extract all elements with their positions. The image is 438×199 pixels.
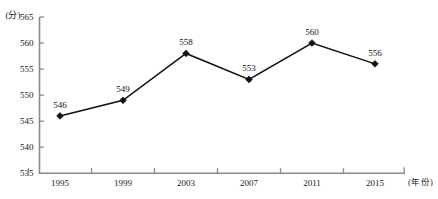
y-tick-label: 555 <box>20 64 34 74</box>
data-point-markers <box>57 40 379 120</box>
data-point-value-label: 558 <box>179 37 193 47</box>
data-point-value-label: 549 <box>116 84 130 94</box>
data-point-value-label: 560 <box>305 27 319 37</box>
y-tick-label: 560 <box>20 38 34 48</box>
x-tick-label: 1999 <box>114 178 133 188</box>
data-point-marker <box>309 40 316 47</box>
data-point-value-label: 546 <box>53 100 67 110</box>
x-tick-label: 2011 <box>303 178 321 188</box>
x-tick-label: 1995 <box>51 178 70 188</box>
y-tick-label: 565 <box>20 12 34 22</box>
data-point-marker <box>246 76 253 83</box>
x-axis-tick-labels: 199519992003200720112015 <box>51 178 385 188</box>
y-axis-tick-labels: 535540545550555560565 <box>20 12 34 178</box>
y-tick-label: 545 <box>20 116 34 126</box>
x-axis-tick-marks <box>29 167 405 173</box>
x-tick-label: 2003 <box>177 178 196 188</box>
x-tick-label: 2007 <box>240 178 259 188</box>
data-series-line <box>60 43 375 116</box>
data-point-value-label: 553 <box>242 63 256 73</box>
chart-plot-area: 535540545550555560565 199519992003200720… <box>0 0 438 199</box>
line-chart: (分) (年份) 535540545550555560565 199519992… <box>0 0 438 199</box>
y-tick-label: 535 <box>20 168 34 178</box>
x-tick-label: 2015 <box>366 178 385 188</box>
data-point-marker <box>57 113 64 120</box>
data-point-marker <box>372 60 379 67</box>
data-point-value-labels: 546549558553560556 <box>53 27 382 110</box>
data-point-value-label: 556 <box>368 48 382 58</box>
y-tick-label: 540 <box>20 142 34 152</box>
y-tick-label: 550 <box>20 90 34 100</box>
